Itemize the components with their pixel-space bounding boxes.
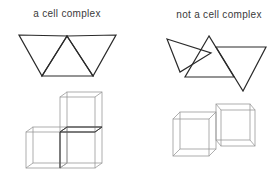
right-triangles-not-cell-complex (167, 36, 266, 91)
shared-face-edge-1 (60, 127, 67, 132)
left-cube-0 (60, 92, 102, 132)
right-cube-0 (173, 112, 216, 156)
left-triangle-2 (67, 35, 116, 76)
left-cubes-cell-complex (26, 92, 102, 168)
left-panel-title: a cell complex (33, 8, 101, 19)
shared-face-edge-2 (95, 127, 102, 132)
cell-complex-diagram: a cell complex not a cell complex (0, 0, 275, 181)
left-cube-2 (60, 127, 102, 168)
right-triangle-2 (216, 47, 266, 91)
left-cube-1 (26, 127, 67, 168)
right-triangle-1 (185, 36, 234, 77)
left-triangle-0 (19, 35, 67, 76)
right-cubes-not-cell-complex (173, 104, 255, 156)
left-triangles-cell-complex (19, 35, 116, 76)
right-panel-title: not a cell complex (176, 9, 261, 20)
left-triangle-1 (42, 36, 93, 76)
right-cube-1 (216, 104, 255, 146)
